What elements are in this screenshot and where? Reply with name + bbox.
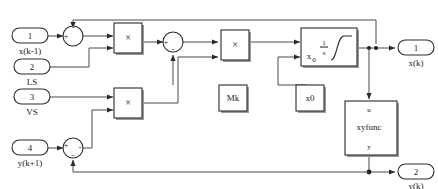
constant-block-mk-label: Mk [227, 93, 240, 103]
product-block-2[interactable]: × [221, 30, 251, 62]
input-port-2-number: 2 [30, 62, 35, 72]
integrator-numerator: 1 [322, 39, 326, 47]
input-port-1-label: x(k-1) [19, 46, 42, 56]
input-port-2-label: LS [27, 77, 38, 87]
product-block-3[interactable]: × [114, 88, 144, 120]
diagram-svg: 1 x(k-1) 2 LS 3 VS 4 y(k+1) + - + - [0, 0, 438, 189]
input-port-1-number: 1 [28, 31, 33, 41]
output-port-1-number: 1 [414, 43, 419, 53]
input-port-2[interactable]: 2 LS [14, 59, 50, 87]
sum-block-1-sign-top: - [72, 23, 75, 32]
product-block-1-symbol: × [125, 32, 131, 43]
input-port-1[interactable]: 1 x(k-1) [12, 28, 48, 56]
constant-block-mk[interactable]: Mk [219, 85, 249, 113]
sum-block-2-sign-bottom: - [172, 45, 175, 54]
block-diagram-canvas: 1 x(k-1) 2 LS 3 VS 4 y(k+1) + - + - [0, 0, 438, 189]
xyfunc-label: xyfunc [357, 122, 382, 132]
output-port-1-label: x(k) [409, 58, 424, 68]
junction-xk-b [374, 46, 378, 50]
sum-block-2[interactable]: + - [163, 32, 183, 54]
input-port-4-number: 4 [28, 143, 33, 153]
output-port-2-label: y(k) [409, 181, 424, 189]
input-port-3[interactable]: 3 VS [14, 89, 50, 117]
integrator-init-subscript: 0 [312, 56, 316, 64]
wire-xyfunc-to-out2 [369, 157, 395, 172]
product-block-2-symbol: × [232, 39, 238, 50]
sum-block-3-sign-left: + [64, 141, 69, 150]
wire-in2-to-prod1 [50, 48, 113, 67]
wire-sum3-to-prod3 [83, 110, 113, 148]
sum-block-3-sign-bottom: - [72, 151, 75, 160]
output-port-2[interactable]: 2 y(k) [398, 164, 434, 189]
integrator-init-label: x [307, 51, 312, 61]
output-port-2-number: 2 [414, 167, 419, 177]
xyfunc-bottom-port-glyph: y [367, 143, 371, 151]
input-port-3-number: 3 [30, 92, 35, 102]
input-port-4[interactable]: 4 y(k+1) [12, 140, 48, 168]
integrator-block[interactable]: x 0 1 s [301, 28, 359, 68]
sum-block-3-sign-right: - [79, 143, 82, 152]
input-port-3-label: VS [26, 107, 38, 117]
xyfunc-block[interactable]: u xyfunc y [345, 101, 399, 157]
output-port-1[interactable]: 1 x(k) [398, 40, 434, 68]
constant-block-x0-label: x0 [306, 93, 316, 103]
sum-block-3[interactable]: + - - [63, 138, 83, 160]
input-port-4-label: y(k+1) [18, 158, 43, 168]
xyfunc-top-port-glyph: u [367, 106, 371, 114]
sum-block-1-sign-left: + [64, 32, 69, 41]
integrator-denominator: s [323, 49, 326, 57]
product-block-3-symbol: × [125, 97, 131, 108]
product-block-1[interactable]: × [114, 23, 144, 55]
wire-prod3-to-prod2 [143, 57, 218, 103]
constant-block-x0[interactable]: x0 [296, 85, 326, 113]
sum-block-1[interactable]: + - [63, 23, 83, 46]
sum-block-2-sign-left: + [164, 38, 169, 47]
